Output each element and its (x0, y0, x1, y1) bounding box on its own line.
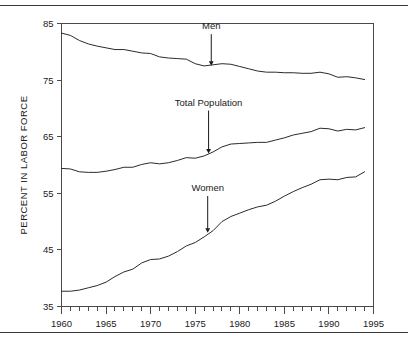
x-tick-label: 1970 (140, 318, 161, 329)
y-axis-title: PERCENT IN LABOR FORCE (18, 95, 29, 234)
y-tick-label: 85 (43, 18, 54, 29)
y-tick-label: 35 (43, 301, 54, 312)
y-tick-label: 65 (43, 131, 54, 142)
plot-frame (62, 24, 374, 307)
x-tick-label: 1995 (363, 318, 384, 329)
x-tick-label: 1960 (51, 318, 72, 329)
x-tick-label: 1990 (318, 318, 339, 329)
y-tick-label: 75 (43, 75, 54, 86)
annotation-label-total-population: Total Population (175, 97, 243, 108)
x-tick-label: 1980 (229, 318, 250, 329)
x-tick-label: 1975 (185, 318, 206, 329)
annotation-label-women: Women (191, 182, 224, 193)
chart-tick-labels: 3545556575851960196519701975198019851990… (18, 18, 384, 329)
chart-figure: MenTotal PopulationWomen 354555657585196… (0, 0, 408, 345)
chart-series (62, 33, 365, 291)
labor-force-line-chart: MenTotal PopulationWomen 354555657585196… (0, 0, 408, 345)
x-tick-label: 1985 (274, 318, 295, 329)
y-tick-label: 55 (43, 188, 54, 199)
x-tick-label: 1965 (96, 318, 117, 329)
annotation-arrow-head (205, 228, 210, 233)
chart-annotations: MenTotal PopulationWomen (175, 20, 243, 233)
chart-axes (57, 24, 374, 314)
y-tick-label: 45 (43, 244, 54, 255)
annotation-label-men: Men (202, 20, 220, 31)
series-line-total-population (62, 128, 365, 173)
series-line-men (62, 33, 365, 79)
